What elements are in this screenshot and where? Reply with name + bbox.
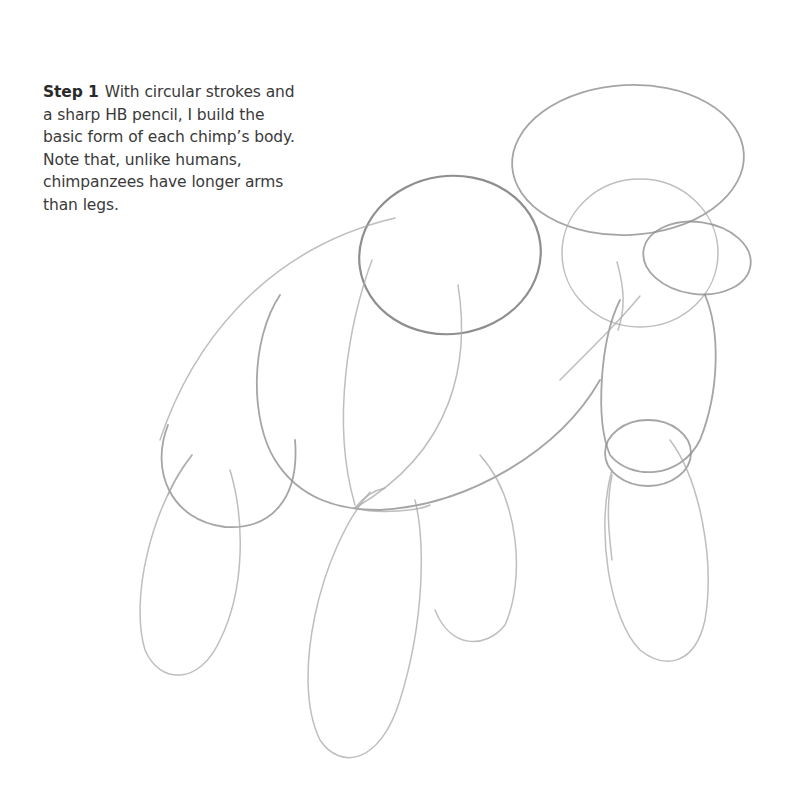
upper-arm-oval <box>601 295 715 472</box>
lower-arm-oval <box>605 440 708 661</box>
center-leg-oval <box>308 492 421 758</box>
back-leg-left <box>140 455 240 675</box>
chimp-sketch-illustration <box>0 0 797 787</box>
back-leg-right <box>435 455 516 642</box>
neck-stroke <box>617 262 623 330</box>
hip-oval <box>162 425 296 527</box>
torso-inner-line-left <box>343 260 372 505</box>
head-oval <box>508 79 748 241</box>
torso-inner-line-right <box>355 285 462 508</box>
muzzle-circle <box>562 179 718 327</box>
torso-outline <box>257 295 600 510</box>
lower-arm-inner-line <box>608 475 612 560</box>
neck-cross-stroke <box>560 296 640 380</box>
mouth-oval <box>639 215 756 301</box>
